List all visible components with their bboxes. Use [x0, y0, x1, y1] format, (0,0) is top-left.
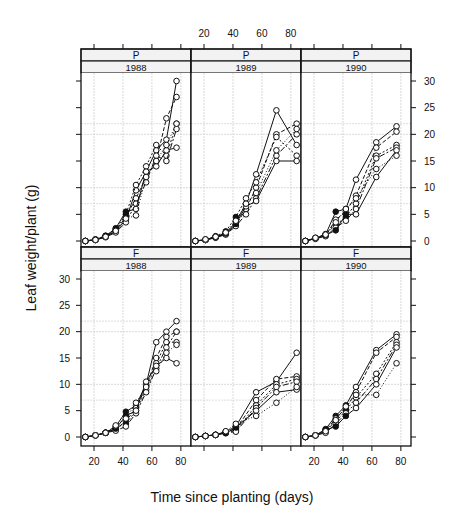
y-tick-label: 30 — [59, 274, 71, 285]
y-tick-label: 25 — [424, 102, 436, 113]
panel-F-1989: F1989 — [191, 247, 301, 446]
data-point — [333, 228, 339, 234]
data-point — [133, 408, 139, 414]
data-point — [274, 108, 280, 114]
trellis-chart: P1988P1989P1990F1988F1989F19902040608020… — [0, 0, 454, 517]
y-axis-title: Leaf weight/plant (g) — [23, 185, 39, 312]
strip-year-label: 1988 — [125, 62, 146, 73]
data-point — [253, 180, 259, 186]
data-point — [253, 408, 259, 414]
data-point — [233, 218, 239, 224]
y-tick-label: 10 — [424, 182, 436, 193]
data-point — [143, 379, 149, 385]
data-point — [343, 212, 349, 218]
data-point — [353, 392, 359, 398]
data-point — [174, 342, 180, 348]
data-point — [343, 404, 349, 410]
data-point — [233, 421, 239, 427]
data-point — [313, 235, 319, 241]
data-point — [83, 238, 89, 244]
x-tick-label: 80 — [285, 28, 297, 39]
data-point — [274, 384, 280, 390]
data-point — [343, 206, 349, 212]
data-point — [373, 166, 379, 172]
data-point — [223, 230, 229, 236]
y-tick-label: 20 — [59, 326, 71, 337]
data-point — [253, 389, 259, 395]
data-point — [243, 212, 249, 218]
data-point — [373, 145, 379, 151]
data-point — [203, 433, 209, 439]
data-point — [164, 116, 170, 122]
data-point — [294, 153, 300, 159]
data-point — [394, 129, 400, 135]
data-point — [294, 126, 300, 132]
data-point — [353, 196, 359, 202]
strip-treatment-label: F — [133, 248, 139, 259]
data-point — [333, 417, 339, 423]
panel-F-1988: F1988 — [81, 247, 191, 446]
data-point — [333, 209, 339, 215]
data-point — [394, 334, 400, 340]
data-point — [164, 142, 170, 148]
x-tick-label: 80 — [395, 456, 407, 467]
data-point — [253, 413, 259, 419]
data-point — [123, 424, 129, 430]
y-tick-label: 25 — [59, 300, 71, 311]
data-point — [313, 433, 319, 439]
data-point — [123, 416, 129, 422]
panel-F-1990: F1990 — [301, 247, 411, 446]
x-tick-label: 60 — [366, 456, 378, 467]
strip-treatment-label: F — [353, 248, 359, 259]
strip-year-label: 1989 — [235, 260, 256, 271]
data-point — [353, 405, 359, 411]
data-point — [153, 142, 159, 148]
data-point — [133, 182, 139, 188]
x-tick-label: 60 — [146, 456, 158, 467]
x-tick-label: 40 — [227, 28, 239, 39]
data-point — [174, 94, 180, 100]
y-tick-label: 0 — [424, 236, 430, 247]
x-tick-label: 60 — [256, 28, 268, 39]
data-point — [213, 432, 219, 438]
data-point — [274, 153, 280, 159]
strip-treatment-label: F — [243, 248, 249, 259]
data-point — [174, 121, 180, 127]
data-point — [213, 234, 219, 240]
y-tick-label: 5 — [424, 209, 430, 220]
data-point — [394, 124, 400, 130]
data-point — [274, 389, 280, 395]
data-point — [253, 172, 259, 178]
panel-P-1989: P1989 — [191, 49, 301, 247]
data-point — [294, 384, 300, 390]
x-tick-label: 40 — [337, 456, 349, 467]
data-point — [333, 424, 339, 430]
strip-year-label: 1990 — [345, 62, 366, 73]
data-point — [153, 158, 159, 164]
data-point — [253, 198, 259, 204]
data-point — [103, 234, 109, 240]
data-point — [333, 220, 339, 226]
panel-P-1988: P1988 — [81, 49, 191, 247]
y-tick-label: 30 — [424, 76, 436, 87]
data-point — [133, 400, 139, 406]
data-point — [133, 206, 139, 212]
data-point — [243, 201, 249, 207]
data-point — [343, 218, 349, 224]
data-point — [294, 158, 300, 164]
strip-year-label: 1989 — [235, 62, 256, 73]
data-point — [164, 334, 170, 340]
y-tick-label: 5 — [64, 405, 70, 416]
data-point — [123, 209, 129, 215]
data-point — [274, 148, 280, 154]
strip-treatment-label: P — [243, 50, 250, 61]
data-point — [193, 434, 199, 440]
data-point — [153, 368, 159, 374]
y-tick-label: 20 — [424, 129, 436, 140]
data-point — [143, 174, 149, 180]
strip-treatment-label: P — [133, 50, 140, 61]
y-tick-label: 10 — [59, 379, 71, 390]
data-point — [353, 201, 359, 207]
data-point — [164, 158, 170, 164]
data-point — [253, 397, 259, 403]
